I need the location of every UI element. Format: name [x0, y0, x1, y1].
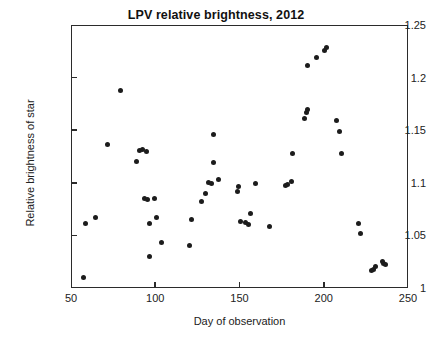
- data-point: [314, 55, 319, 60]
- x-axis-tick: [323, 282, 325, 288]
- y-axis-tick-label: 1.05: [368, 229, 432, 241]
- y-axis-tick: [71, 235, 77, 237]
- data-point: [209, 181, 214, 186]
- y-axis-tick: [71, 182, 77, 184]
- data-point: [216, 177, 221, 182]
- data-point: [383, 262, 388, 267]
- x-axis-tick-label: 150: [217, 292, 263, 304]
- x-axis-label: Day of observation: [71, 315, 408, 327]
- y-axis-tick: [71, 129, 77, 131]
- data-point: [152, 196, 157, 201]
- data-point: [159, 240, 164, 245]
- data-point: [93, 215, 98, 220]
- x-axis-tick-label: 250: [385, 292, 431, 304]
- x-axis-tick: [239, 282, 241, 288]
- y-axis-label: Relative brightness of star: [24, 48, 36, 278]
- data-point: [203, 191, 208, 196]
- data-point: [290, 151, 295, 156]
- data-point: [199, 199, 204, 204]
- data-point: [305, 107, 310, 112]
- data-point: [246, 222, 251, 227]
- data-point: [356, 221, 361, 226]
- x-axis-tick: [154, 282, 156, 288]
- data-point: [235, 189, 240, 194]
- y-axis-tick-label: 1.1: [368, 177, 432, 189]
- data-point: [134, 159, 139, 164]
- y-axis-tick-label: 1.15: [368, 124, 432, 136]
- data-point: [147, 254, 152, 259]
- data-point: [83, 221, 88, 226]
- data-point: [302, 116, 307, 121]
- data-point: [81, 275, 86, 280]
- chart-figure: LPV relative brightness, 2012 11.051.11.…: [0, 0, 432, 347]
- data-point: [358, 231, 363, 236]
- data-point: [147, 221, 152, 226]
- x-axis-tick-label: 50: [48, 292, 94, 304]
- data-point: [145, 197, 150, 202]
- data-point: [144, 149, 149, 154]
- data-point: [211, 132, 216, 137]
- y-axis-tick-label: 1.2: [368, 72, 432, 84]
- data-point: [324, 45, 329, 50]
- data-point: [253, 181, 258, 186]
- data-point: [334, 118, 339, 123]
- x-axis-tick-label: 200: [301, 292, 347, 304]
- x-axis-tick-label: 100: [132, 292, 178, 304]
- data-point: [339, 151, 344, 156]
- data-point: [267, 224, 272, 229]
- data-point: [289, 179, 294, 184]
- data-point: [305, 63, 310, 68]
- plot-area: [71, 25, 408, 288]
- data-point: [211, 160, 216, 165]
- data-point: [248, 211, 253, 216]
- data-point: [118, 88, 123, 93]
- y-axis-tick-label: 1.25: [368, 19, 432, 31]
- data-point: [373, 264, 378, 269]
- data-point: [337, 129, 342, 134]
- data-point: [236, 184, 241, 189]
- data-point: [154, 215, 159, 220]
- y-axis-tick: [71, 77, 77, 79]
- data-point: [189, 217, 194, 222]
- data-point: [187, 243, 192, 248]
- data-point: [105, 142, 110, 147]
